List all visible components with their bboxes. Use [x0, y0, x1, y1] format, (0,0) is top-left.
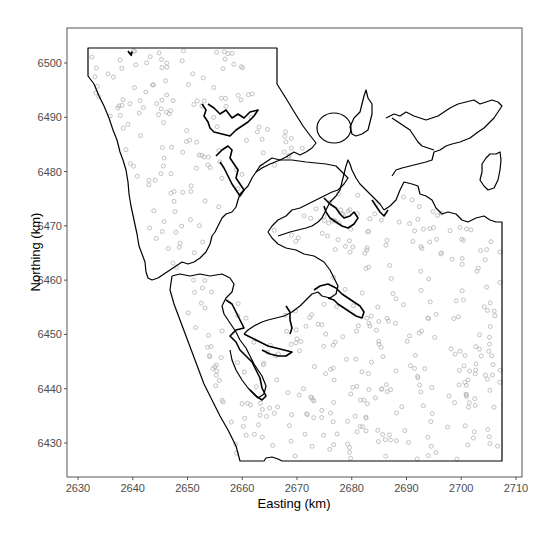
y-axis-title: Northing (km) — [28, 213, 43, 292]
x-tick-label: 2630 — [66, 482, 90, 494]
x-tick-label: 2670 — [285, 482, 309, 494]
background — [0, 0, 551, 534]
y-tick-label: 6450 — [38, 328, 62, 340]
x-tick-label: 2640 — [121, 482, 145, 494]
y-tick-label: 6500 — [38, 57, 62, 69]
y-tick-label: 6440 — [38, 383, 62, 395]
y-tick-label: 6430 — [38, 437, 62, 449]
scatter-map-plot: 263026402650266026702680269027002710 643… — [0, 0, 551, 534]
y-tick-label: 6480 — [38, 166, 62, 178]
x-tick-label: 2700 — [449, 482, 473, 494]
x-axis-title: Easting (km) — [258, 496, 331, 511]
x-tick-label: 2690 — [394, 482, 418, 494]
y-tick-label: 6490 — [38, 111, 62, 123]
x-tick-label: 2710 — [504, 482, 528, 494]
x-tick-label: 2650 — [175, 482, 199, 494]
x-tick-label: 2660 — [230, 482, 254, 494]
x-tick-label: 2680 — [340, 482, 364, 494]
